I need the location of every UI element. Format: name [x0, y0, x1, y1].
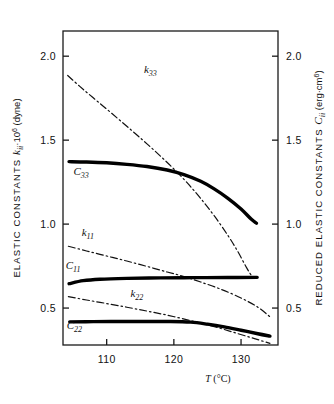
- curve-label-subscript: 11: [87, 232, 94, 241]
- y-tick-label-right: 1.0: [286, 218, 302, 230]
- curve-label-subscript: 33: [80, 171, 89, 180]
- y-tick-label-left: 1.5: [40, 134, 56, 146]
- curve-label-subscript: 11: [73, 265, 80, 274]
- x-tick-label: 110: [98, 353, 116, 365]
- y-tick-label-right: 2.0: [286, 50, 302, 62]
- x-title-unit: (°C): [213, 373, 230, 385]
- right-title-unit-open: (erg·cm: [313, 77, 324, 110]
- curve-label-subscript: 33: [148, 69, 157, 78]
- y-tick-label-left: 0.5: [40, 302, 56, 314]
- left-title-main: ELASTIC CONSTANTS: [11, 159, 22, 278]
- y-tick-label-right: 1.5: [286, 134, 302, 146]
- x-axis-title: T (°C): [205, 373, 230, 385]
- right-title-main: REDUCED ELASTIC CONSTANTS: [313, 128, 324, 305]
- svg-text:T (°C): T (°C): [205, 373, 230, 385]
- right-title-unit-close: ): [313, 70, 324, 73]
- left-title-unit: (dyne): [11, 98, 22, 125]
- y-tick-label-right: 0.5: [286, 302, 302, 314]
- figure-container: k33C33k11C11k22C22 110120130 0.51.01.52.…: [0, 0, 334, 404]
- elastic-constants-chart: k33C33k11C11k22C22 110120130 0.51.01.52.…: [0, 0, 334, 404]
- left-title-factor: ·10: [11, 132, 22, 146]
- curve-label-subscript: 22: [135, 293, 143, 302]
- x-tick-label: 120: [164, 353, 183, 365]
- x-tick-label: 130: [232, 353, 251, 365]
- y-tick-label-left: 2.0: [40, 50, 56, 62]
- curve-label-subscript: 22: [74, 325, 82, 334]
- y-tick-label-left: 1.0: [40, 218, 56, 230]
